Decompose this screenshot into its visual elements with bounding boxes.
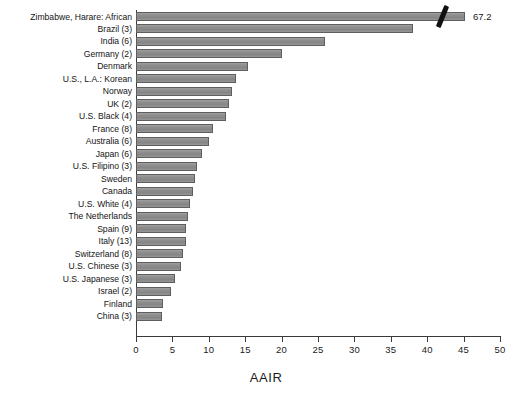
x-tick-label-50: 50 <box>485 344 512 355</box>
bar <box>136 187 193 196</box>
x-axis-title: AAIR <box>0 370 512 385</box>
x-tick-0 <box>136 337 137 342</box>
x-tick-label-5: 5 <box>157 344 187 355</box>
x-axis-title-text: AAIR <box>250 370 283 385</box>
bar-row: Israel (2) <box>0 287 512 300</box>
bar <box>136 162 197 171</box>
x-tick-15 <box>245 337 246 342</box>
bar <box>136 237 186 246</box>
bar-row: The Netherlands <box>0 212 512 225</box>
bar-row: Norway <box>0 87 512 100</box>
x-tick-label-30: 30 <box>339 344 369 355</box>
category-label: UK (2) <box>0 99 132 109</box>
bar <box>136 299 163 308</box>
x-tick-label-40: 40 <box>412 344 442 355</box>
category-label: Sweden <box>0 174 132 184</box>
bar-row: U.S., L.A.: Korean <box>0 74 512 87</box>
category-label: The Netherlands <box>0 211 132 221</box>
bar <box>136 62 248 71</box>
category-label: U.S. Japanese (3) <box>0 274 132 284</box>
x-tick-25 <box>318 337 319 342</box>
bar <box>136 312 162 321</box>
x-tick-label-35: 35 <box>376 344 406 355</box>
bar <box>136 112 226 121</box>
bar <box>136 224 186 233</box>
category-label: Norway <box>0 86 132 96</box>
bar-value-label: 67.2 <box>473 11 492 22</box>
bar-row: Spain (9) <box>0 224 512 237</box>
bar-row: Finland <box>0 299 512 312</box>
bar <box>136 262 181 271</box>
bar <box>136 74 236 83</box>
x-tick-45 <box>464 337 465 342</box>
category-label: Japan (6) <box>0 149 132 159</box>
bar <box>136 12 465 21</box>
x-tick-5 <box>172 337 173 342</box>
bar <box>136 99 229 108</box>
bar-row: India (6) <box>0 37 512 50</box>
bar <box>136 37 325 46</box>
x-tick-10 <box>209 337 210 342</box>
bar-row: Zimbabwe, Harare: African67.2 <box>0 12 512 25</box>
bar <box>136 249 183 258</box>
x-tick-label-25: 25 <box>303 344 333 355</box>
category-label: Brazil (3) <box>0 24 132 34</box>
x-tick-30 <box>354 337 355 342</box>
category-label: U.S. Filipino (3) <box>0 161 132 171</box>
bar <box>136 174 195 183</box>
bar-row: France (8) <box>0 124 512 137</box>
category-label: Italy (13) <box>0 236 132 246</box>
category-label: Spain (9) <box>0 224 132 234</box>
category-label: Canada <box>0 186 132 196</box>
bar-row: Germany (2) <box>0 49 512 62</box>
category-label: U.S. White (4) <box>0 199 132 209</box>
category-label: Australia (6) <box>0 136 132 146</box>
bar-row: Italy (13) <box>0 237 512 250</box>
x-tick-20 <box>282 337 283 342</box>
category-label: Denmark <box>0 61 132 71</box>
bar-row: Canada <box>0 187 512 200</box>
bar-chart: Zimbabwe, Harare: African67.2Brazil (3)I… <box>0 0 512 396</box>
x-tick-label-20: 20 <box>267 344 297 355</box>
category-label: Zimbabwe, Harare: African <box>0 12 132 22</box>
bar <box>136 149 202 158</box>
bar-row: U.S. White (4) <box>0 199 512 212</box>
x-tick-label-10: 10 <box>194 344 224 355</box>
category-label: India (6) <box>0 36 132 46</box>
bar-row: U.S. Filipino (3) <box>0 162 512 175</box>
bar-row: UK (2) <box>0 99 512 112</box>
x-tick-35 <box>391 337 392 342</box>
bar-row: U.S. Japanese (3) <box>0 274 512 287</box>
category-label: France (8) <box>0 124 132 134</box>
bar <box>136 87 232 96</box>
category-label: U.S., L.A.: Korean <box>0 74 132 84</box>
x-tick-label-45: 45 <box>449 344 479 355</box>
bar <box>136 137 209 146</box>
bar <box>136 24 413 33</box>
bar-row: Australia (6) <box>0 137 512 150</box>
category-label: Israel (2) <box>0 286 132 296</box>
category-label: Switzerland (8) <box>0 249 132 259</box>
category-label: U.S. Black (4) <box>0 111 132 121</box>
category-label: China (3) <box>0 311 132 321</box>
bar <box>136 274 175 283</box>
x-tick-50 <box>500 337 501 342</box>
bar-row: Denmark <box>0 62 512 75</box>
bar <box>136 199 190 208</box>
x-tick-40 <box>427 337 428 342</box>
bar-row: Brazil (3) <box>0 24 512 37</box>
bar-row: Japan (6) <box>0 149 512 162</box>
bar-row: Switzerland (8) <box>0 249 512 262</box>
x-tick-label-0: 0 <box>121 344 151 355</box>
bar-row: U.S. Black (4) <box>0 112 512 125</box>
bar-row: Sweden <box>0 174 512 187</box>
category-label: U.S. Chinese (3) <box>0 261 132 271</box>
category-label: Germany (2) <box>0 49 132 59</box>
bar <box>136 212 188 221</box>
bar-row: U.S. Chinese (3) <box>0 262 512 275</box>
bar <box>136 287 171 296</box>
x-tick-label-15: 15 <box>230 344 260 355</box>
bar <box>136 49 282 58</box>
category-label: Finland <box>0 299 132 309</box>
bar <box>136 124 213 133</box>
